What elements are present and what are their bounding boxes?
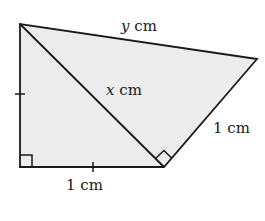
label-top-edge-y: y cm [120, 17, 157, 35]
quadrilateral-diagram: y cm x cm 1 cm 1 cm [0, 0, 265, 221]
label-bottom-edge: 1 cm [66, 176, 103, 194]
label-right-edge: 1 cm [213, 119, 250, 137]
label-diagonal-x: x cm [106, 81, 142, 99]
